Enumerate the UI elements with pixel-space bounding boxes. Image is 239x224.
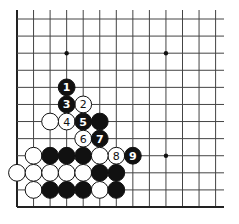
black-stone <box>91 164 108 181</box>
white-stone-disc <box>25 147 42 164</box>
black-stone-move-1: 1 <box>58 79 75 96</box>
black-stone-disc <box>108 182 125 199</box>
move-number: 1 <box>63 81 71 94</box>
move-number: 9 <box>129 150 137 163</box>
white-stone-move-8: 8 <box>108 147 125 164</box>
white-stone-move-2: 2 <box>75 96 92 113</box>
white-stone <box>25 164 42 181</box>
black-stone-disc <box>91 113 108 130</box>
black-stone-move-7: 7 <box>91 130 108 147</box>
black-stone <box>108 182 125 199</box>
go-board: 123456789 <box>0 0 239 224</box>
move-number: 6 <box>80 133 87 146</box>
black-stone-move-3: 3 <box>58 96 75 113</box>
black-stone <box>58 147 75 164</box>
white-stone <box>9 164 26 181</box>
star-point <box>164 51 168 55</box>
black-stone-disc <box>75 147 92 164</box>
white-stone-move-4: 4 <box>58 113 75 130</box>
black-stone <box>58 182 75 199</box>
black-stone-move-9: 9 <box>124 147 141 164</box>
white-stone-disc <box>58 164 75 181</box>
white-stone <box>25 147 42 164</box>
white-stone <box>58 164 75 181</box>
black-stone-disc <box>42 182 59 199</box>
move-number: 8 <box>113 150 120 163</box>
black-stone-disc <box>58 147 75 164</box>
black-stone <box>75 147 92 164</box>
black-stone-disc <box>75 182 92 199</box>
black-stone <box>42 182 59 199</box>
move-number: 3 <box>63 98 71 111</box>
white-stone-disc <box>25 182 42 199</box>
black-stone-disc <box>108 164 125 181</box>
black-stone <box>75 182 92 199</box>
move-number: 5 <box>79 116 87 129</box>
black-stone <box>42 147 59 164</box>
white-stone-disc <box>9 164 26 181</box>
black-stone-disc <box>91 164 108 181</box>
black-stone-disc <box>58 182 75 199</box>
white-stone <box>75 164 92 181</box>
white-stone-disc <box>42 113 59 130</box>
black-stone-disc <box>42 147 59 164</box>
white-stone-disc <box>91 147 108 164</box>
move-number: 2 <box>80 98 87 111</box>
white-stone-disc <box>25 164 42 181</box>
black-stone-move-5: 5 <box>75 113 92 130</box>
move-number: 4 <box>63 116 70 129</box>
white-stone <box>42 164 59 181</box>
white-stone <box>91 182 108 199</box>
white-stone <box>42 113 59 130</box>
white-stone-disc <box>91 182 108 199</box>
black-stone <box>108 164 125 181</box>
white-stone-move-6: 6 <box>75 130 92 147</box>
move-number: 7 <box>96 133 104 146</box>
white-stone-disc <box>75 164 92 181</box>
black-stone <box>91 113 108 130</box>
white-stone <box>91 147 108 164</box>
star-point <box>164 154 168 158</box>
star-point <box>64 51 68 55</box>
white-stone <box>25 182 42 199</box>
white-stone-disc <box>42 164 59 181</box>
